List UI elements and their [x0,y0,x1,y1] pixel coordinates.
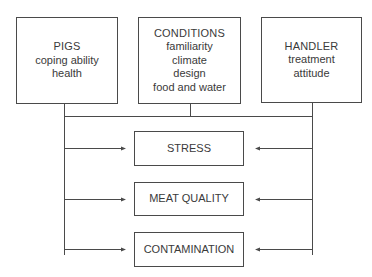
input-box-handler: HANDLER treatment attitude [261,17,362,103]
input-item: familiarity [166,40,212,54]
connector-stub-pigs [64,104,65,255]
input-item: climate [172,54,207,68]
arrow-line-left-stress [64,148,122,149]
connector-horizontal-bus [64,116,313,117]
output-box-meat-quality: MEAT QUALITY [134,182,244,216]
output-box-contamination: CONTAMINATION [134,232,244,267]
output-label-contamination: CONTAMINATION [144,243,235,257]
arrow-line-right-meat-quality [259,199,312,200]
input-item: attitude [293,67,329,81]
input-item: health [52,67,82,81]
input-box-conditions: CONDITIONS familiarity climate design fo… [138,17,241,104]
input-title-pigs: PIGS [53,40,80,54]
arrow-line-left-contamination [64,249,122,250]
input-item: design [173,67,205,81]
input-box-pigs: PIGS coping ability health [16,17,118,104]
output-box-stress: STRESS [134,131,244,166]
input-item: coping ability [35,54,99,68]
input-title-handler: HANDLER [285,40,339,54]
output-label-stress: STRESS [167,142,211,156]
input-item: treatment [288,53,334,67]
input-title-conditions: CONDITIONS [154,27,225,41]
connector-stub-conditions [190,104,191,116]
arrow-line-right-contamination [259,249,312,250]
input-item: food and water [153,81,226,95]
output-label-meat-quality: MEAT QUALITY [149,192,229,206]
arrow-line-left-meat-quality [64,199,122,200]
arrow-line-right-stress [259,148,312,149]
connector-stub-handler [312,103,313,255]
